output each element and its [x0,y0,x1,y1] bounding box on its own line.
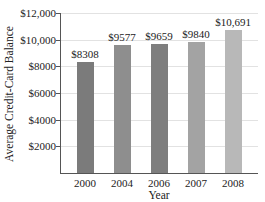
bar-chart: Average Credit-Card Balance $2000$4000$6… [0,0,265,202]
x-tick-label: 2004 [111,178,133,189]
y-axis-label: Average Credit-Card Balance [2,14,16,174]
bar-2007 [188,42,205,173]
x-tick-label: 2006 [148,178,170,189]
y-tick-label: $12,000 [20,8,56,19]
bar-value-label: $10,691 [215,17,251,28]
y-tick-label: $6000 [29,88,57,99]
bar-value-label: $8308 [71,49,99,60]
y-tick-label: $8000 [29,61,57,72]
bar-2008 [225,30,242,173]
bar-2004 [114,45,131,173]
bar-value-label: $9577 [108,32,136,43]
y-axis-label-text: Average Credit-Card Balance [3,26,15,162]
x-tick-label: 2000 [74,178,96,189]
gridline [60,13,258,14]
x-tick-label: 2008 [222,178,244,189]
y-tick-label: $2000 [29,141,57,152]
x-axis-label: Year [148,190,169,201]
y-tick-label: $10,000 [20,35,56,46]
bar-value-label: $9840 [182,29,210,40]
x-axis-line [60,173,258,174]
bar-2000 [77,62,94,173]
bar-value-label: $9659 [145,31,173,42]
x-tick-label: 2007 [185,178,207,189]
y-axis-line [60,13,61,174]
y-tick-label: $4000 [29,115,57,126]
bar-2006 [151,44,168,173]
